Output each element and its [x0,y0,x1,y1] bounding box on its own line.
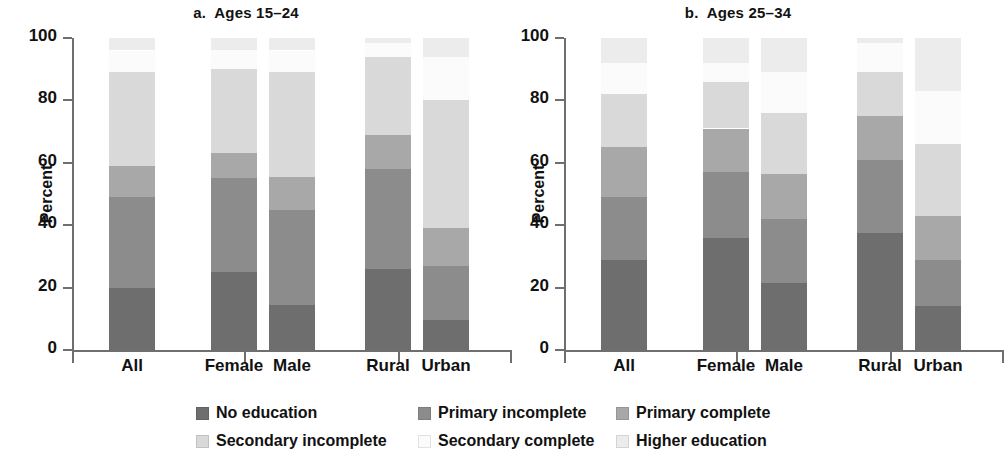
bar-segment [365,135,411,169]
x-axis-tick [72,350,74,363]
legend-item: Higher education [616,432,767,450]
bar-segment [703,63,749,82]
bar-segment [109,166,155,197]
bar-segment [423,100,469,228]
bar-segment [269,305,315,350]
x-axis-tick [564,350,566,363]
bar-segment [269,38,315,50]
y-axis-tick: 20 [63,287,72,289]
bar-segment [365,43,411,57]
bar-segment [915,38,961,91]
legend-swatch-icon [616,435,629,448]
stacked-bar [857,38,903,350]
y-axis-tick: 60 [555,162,564,164]
y-axis-tick-label: 80 [530,88,549,108]
legend-swatch-icon [418,435,431,448]
stacked-bar [761,38,807,350]
bar-segment [109,72,155,166]
bar-segment [703,238,749,350]
y-axis-tick: 0 [555,349,564,351]
y-axis-tick-label: 80 [38,88,57,108]
y-axis-tick-label: 40 [530,213,549,233]
legend-swatch-icon [196,435,209,448]
bar-segment [365,269,411,350]
y-axis-tick-label: 0 [48,338,57,358]
chart-legend: No educationPrimary incompletePrimary co… [196,404,816,456]
bar-segment [915,216,961,260]
y-axis-tick: 20 [555,287,564,289]
stacked-bar [915,38,961,350]
panel-a-title: a. Ages 15–24 [0,4,492,21]
bar-segment [601,63,647,94]
bar-segment [915,260,961,307]
y-axis-line [72,38,74,350]
bar-segment [423,228,469,265]
bar-segment [915,306,961,350]
x-axis-category-label: Urban [888,356,988,376]
bar-segment [211,178,257,272]
bar-segment [211,38,257,50]
bar-segment [423,320,469,350]
stacked-bar [423,38,469,350]
legend-item: Secondary incomplete [196,432,387,450]
legend-swatch-icon [418,407,431,420]
stacked-bar [269,38,315,350]
chart-panel-a: a. Ages 15–24 Percent 020406080100 AllFe… [0,0,492,400]
stacked-bar [703,38,749,350]
stacked-bar [211,38,257,350]
y-axis-tick: 100 [555,37,564,39]
bar-segment [109,38,155,50]
bar-segment [857,43,903,73]
bar-segment [857,233,903,350]
chart-panel-b: b. Ages 25–34 Percent 020406080100 AllFe… [492,0,984,400]
y-axis-tick-label: 20 [38,276,57,296]
x-axis-category-label: Urban [396,356,496,376]
bar-segment [365,169,411,269]
panel-b-plot-area: Percent 020406080100 AllFemaleMaleRuralU… [564,38,964,350]
legend-label: No education [216,404,317,422]
bar-segment [601,260,647,350]
bar-segment [365,57,411,135]
legend-label: Higher education [636,432,767,450]
panel-a-plot-area: Percent 020406080100 AllFemaleMaleRuralU… [72,38,472,350]
legend-item: Primary complete [616,404,770,422]
bar-segment [761,174,807,219]
bar-segment [211,50,257,69]
bar-segment [857,72,903,116]
y-axis-tick: 0 [63,349,72,351]
stacked-bar [109,38,155,350]
bar-segment [211,69,257,153]
x-axis-category-label: All [574,356,674,376]
x-axis-category-label: Male [242,356,342,376]
y-axis-tick: 80 [63,99,72,101]
y-axis-tick-label: 60 [38,151,57,171]
legend-item: Secondary complete [418,432,595,450]
bar-segment [601,147,647,197]
bar-segment [109,51,155,73]
y-axis-tick-label: 40 [38,213,57,233]
x-axis-line [72,350,512,352]
legend-swatch-icon [616,407,629,420]
legend-swatch-icon [196,407,209,420]
y-axis-tick-label: 100 [29,26,57,46]
bar-segment [423,266,469,321]
bar-segment [423,38,469,57]
stacked-bar [601,38,647,350]
bar-segment [703,82,749,129]
legend-label: Primary incomplete [438,404,587,422]
y-axis-tick-label: 60 [530,151,549,171]
bar-segment [915,144,961,216]
y-axis-tick: 80 [555,99,564,101]
y-axis-tick-label: 0 [540,338,549,358]
bar-segment [423,57,469,101]
legend-item: Primary incomplete [418,404,587,422]
bar-segment [601,197,647,259]
legend-item: No education [196,404,317,422]
bar-segment [601,38,647,63]
bar-segment [915,91,961,144]
legend-label: Secondary incomplete [216,432,387,450]
bar-segment [269,72,315,177]
bar-segment [761,219,807,283]
stacked-bar [365,38,411,350]
bar-segment [857,38,903,43]
